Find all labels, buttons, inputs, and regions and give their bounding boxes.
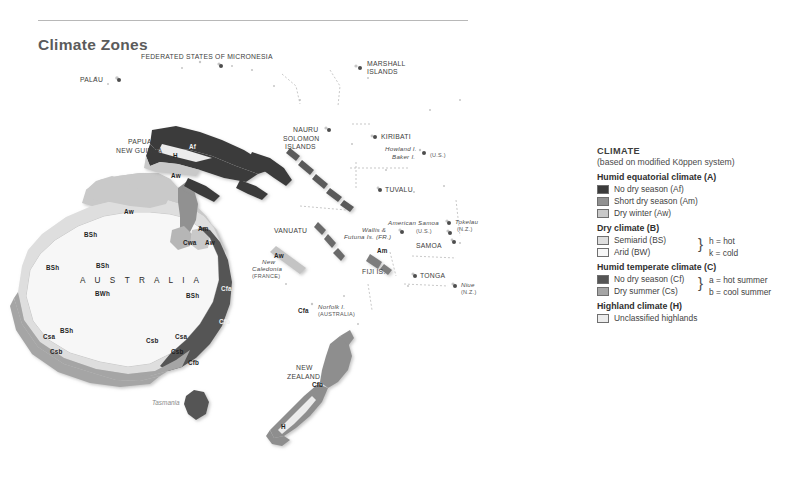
place-label: NEW (296, 364, 313, 372)
legend-group-heading: Humid equatorial climate (A) (597, 172, 783, 182)
legend-swatch-icon (597, 275, 609, 284)
legend-item[interactable]: Arid (BW) (597, 247, 783, 257)
climate-legend: CLIMATE (based on modified Köppen system… (597, 146, 783, 323)
place-label: NAURU (293, 126, 318, 134)
australia-country-label: A U S T R A L I A (80, 276, 203, 285)
legend-brace-icon: } (698, 275, 703, 290)
legend-group-items: Semiarid (BS)Arid (BW)}h = hotk = cold (597, 235, 783, 257)
legend-group-heading: Dry climate (B) (597, 223, 783, 233)
climate-zone-code: Cfa (298, 307, 309, 314)
legend-item-label: Arid (BW) (614, 247, 650, 257)
place-label: TUVALU (385, 186, 413, 194)
place-label: ISLANDS (367, 68, 398, 76)
legend-note: h = hot (709, 236, 735, 246)
climate-zone-code: BSh (60, 327, 73, 334)
climate-zone-code: Csb (50, 348, 63, 355)
climate-zone-code: BSh (84, 231, 97, 238)
legend-swatch-icon (597, 248, 609, 257)
climate-zone-code: Aw (171, 172, 181, 179)
landmass-new-zealand (266, 330, 354, 446)
place-label: TONGA (420, 272, 445, 280)
legend-swatch-icon (597, 209, 609, 218)
place-label: PALAU (80, 76, 103, 84)
legend-item[interactable]: No dry season (Af) (597, 184, 783, 194)
climate-zone-code: Aw (205, 239, 215, 246)
place-label: VANUATU (274, 227, 307, 235)
climate-zone-code: Aw (124, 208, 134, 215)
place-label: (N.Z.) (457, 226, 473, 232)
place-label: Futuna Is. (FR.) (344, 234, 391, 241)
landmass-vanuatu (314, 222, 345, 261)
place-label: Norfolk I. (318, 304, 345, 311)
legend-note: b = cool summer (709, 287, 771, 297)
climate-zone-code: BSh (46, 264, 59, 271)
climate-zone-code: Am (198, 225, 209, 232)
legend-item-label: Short dry season (Am) (614, 196, 698, 206)
place-label: Tokelau (455, 219, 478, 226)
climate-zone-code: Cfb (219, 318, 230, 325)
landmass-solomon-islands (286, 148, 354, 212)
climate-zone-code: Csa (175, 333, 187, 340)
legend-note: k = cold (709, 248, 738, 258)
climate-zone-code: Am (377, 247, 388, 254)
place-label: KIRIBATI (381, 133, 411, 141)
place-label: (AUSTRALIA) (318, 311, 355, 317)
place-label: (FRANCE) (252, 273, 280, 279)
climate-map: A U S T R A L I A Tasmania FEDERATED STA… (0, 40, 580, 470)
legend-item[interactable]: Semiarid (BS) (597, 235, 783, 245)
legend-item-label: Semiarid (BS) (614, 235, 666, 245)
legend-note: a = hot summer (709, 275, 767, 285)
place-label: FIJI IS. (362, 268, 386, 276)
legend-group-heading: Highland climate (H) (597, 301, 783, 311)
place-label: American Samoa (388, 220, 439, 227)
legend-item-label: Dry summer (Cs) (614, 286, 678, 296)
legend-item-label: No dry season (Cf) (614, 274, 684, 284)
place-label: (N.Z.) (461, 289, 477, 295)
place-label: Baker I. (392, 154, 415, 161)
climate-zone-code: Csb (146, 337, 159, 344)
place-label: Niue (461, 282, 475, 289)
legend-swatch-icon (597, 236, 609, 245)
place-label: SAMOA (416, 242, 442, 250)
climate-zone-code: Aw (274, 252, 284, 259)
legend-group-items: No dry season (Af)Short dry season (Am)D… (597, 184, 783, 218)
legend-group-heading: Humid temperate climate (C) (597, 262, 783, 272)
legend-item[interactable]: Short dry season (Am) (597, 196, 783, 206)
place-label: PAPUA (128, 138, 152, 146)
legend-group-items: No dry season (Cf)Dry summer (Cs)}a = ho… (597, 274, 783, 296)
climate-zone-code: Cfb (188, 359, 199, 366)
legend-groups: Humid equatorial climate (A)No dry seaso… (597, 172, 783, 323)
place-label: (U.S.) (430, 152, 446, 158)
climate-zone-code: Cfa (221, 285, 232, 292)
legend-swatch-icon (597, 197, 609, 206)
place-label: Caledonia (252, 266, 282, 273)
legend-subtitle: (based on modified Köppen system) (597, 157, 783, 167)
climate-zone-code: Cwa (183, 239, 197, 246)
climate-zone-code: BWh (95, 290, 110, 297)
legend-swatch-icon (597, 287, 609, 296)
legend-group-items: Unclassified highlands (597, 313, 783, 323)
legend-item-label: No dry season (Af) (614, 184, 684, 194)
place-label: FEDERATED STATES OF MICRONESIA (141, 53, 273, 61)
place-label: NEW GUINEA (116, 147, 162, 155)
place-label: SOLOMON (283, 135, 320, 143)
place-label: MARSHALL (367, 60, 406, 68)
legend-item[interactable]: Dry winter (Aw) (597, 208, 783, 218)
place-label: Howland I. (385, 146, 417, 153)
climate-zone-code: BSh (186, 292, 199, 299)
climate-zone-code: Csa (43, 333, 55, 340)
climate-zone-code: H (173, 152, 178, 159)
place-label: ISLANDS (285, 143, 316, 151)
legend-item[interactable]: Unclassified highlands (597, 313, 783, 323)
climate-zone-code: H (281, 423, 286, 430)
tasmania-label: Tasmania (152, 399, 179, 406)
place-label: (U.S.) (416, 228, 432, 234)
map-landmasses (0, 40, 580, 470)
legend-swatch-icon (597, 314, 609, 323)
legend-title: CLIMATE (597, 146, 783, 156)
legend-swatch-icon (597, 185, 609, 194)
climate-zone-code: Af (189, 143, 196, 150)
climate-zone-code: Cfb (312, 381, 323, 388)
climate-zone-code: Csb (171, 348, 184, 355)
legend-brace-icon: } (698, 236, 703, 251)
